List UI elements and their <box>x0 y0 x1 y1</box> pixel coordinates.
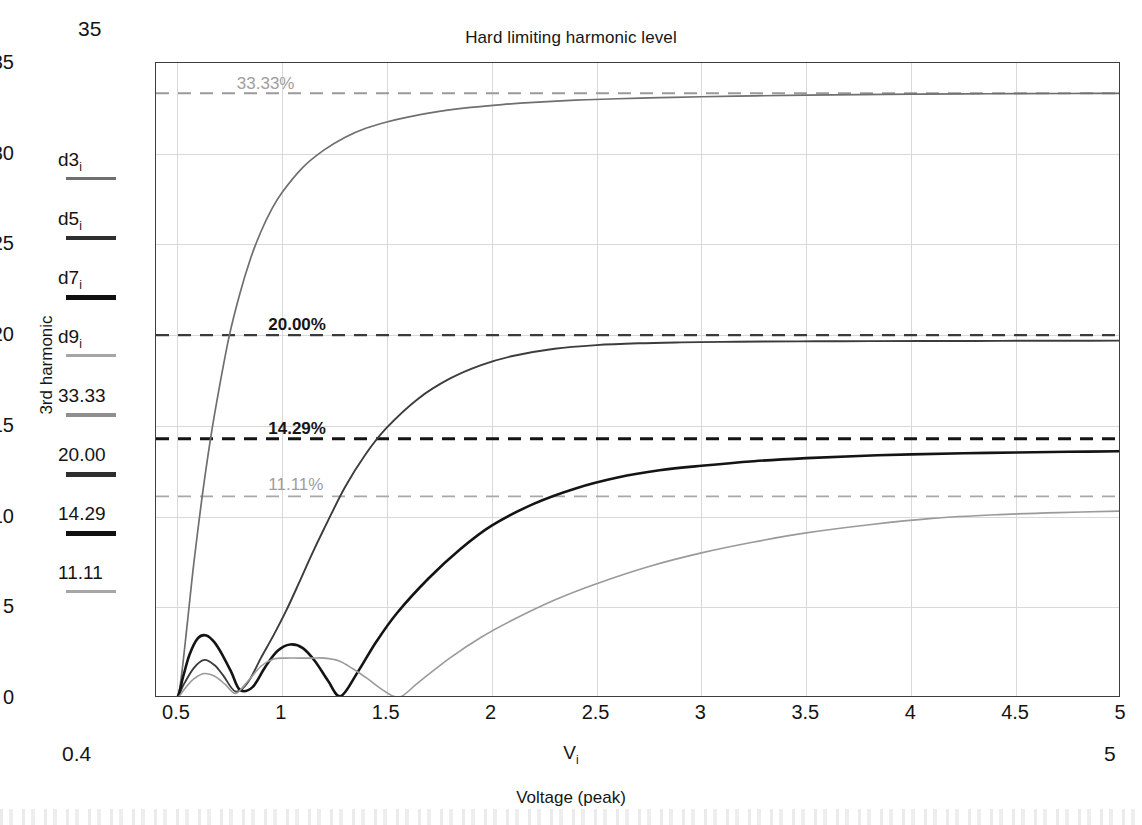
legend-item-label: 20.00 <box>58 445 148 465</box>
x-axis-variable: Vi <box>0 742 1142 767</box>
plot-inner <box>156 63 1119 696</box>
legend-item-swatch <box>66 590 116 593</box>
chart-title: Hard limiting harmonic level <box>0 28 1142 48</box>
series-curve-d5 <box>156 341 1119 696</box>
legend-item-swatch <box>66 295 116 300</box>
legend-item-d3[interactable]: d3i <box>58 150 148 209</box>
legend-item-swatch <box>66 531 116 536</box>
legend-item-swatch <box>66 177 116 180</box>
scan-artifact <box>0 809 1142 825</box>
y-tick-label: 20 <box>0 324 14 344</box>
y-tick-label: 35 <box>0 52 14 72</box>
chart-legend: d3id5id7id9i33.3320.0014.2911.11 <box>58 150 148 622</box>
x-tick-label: 3 <box>665 702 735 722</box>
legend-item-label: d5i <box>58 209 148 236</box>
reference-label-33.33: 33.33% <box>237 74 295 94</box>
y-tick-label: 10 <box>0 506 14 526</box>
y-tick-label: 15 <box>0 415 14 435</box>
x-tick-label: 4 <box>875 702 945 722</box>
x-tick-label: 5 <box>1085 702 1142 722</box>
series-curve-d9 <box>156 511 1119 696</box>
x-tick-label: 2 <box>456 702 526 722</box>
x-tick-label: 1 <box>246 702 316 722</box>
y-tick-label: 5 <box>0 596 14 616</box>
legend-item-label: 11.11 <box>58 563 148 583</box>
y-tick-label: 30 <box>0 143 14 163</box>
curve-layer <box>156 63 1119 696</box>
legend-item-14.29[interactable]: 14.29 <box>58 504 148 563</box>
x-tick-label: 2.5 <box>561 702 631 722</box>
x-tick-label: 3.5 <box>770 702 840 722</box>
legend-item-swatch <box>66 236 116 240</box>
x-tick-label: 0.5 <box>141 702 211 722</box>
y-tick-label: 25 <box>0 233 14 253</box>
plot-area <box>155 62 1120 697</box>
legend-item-label: d3i <box>58 150 148 177</box>
x-axis-title: Voltage (peak) <box>0 788 1142 808</box>
y-tick-label: 0 <box>0 687 14 707</box>
legend-item-swatch <box>66 413 116 417</box>
reference-label-14.29: 14.29% <box>268 419 326 439</box>
legend-item-label: d9i <box>58 327 148 354</box>
reference-label-20.00: 20.00% <box>268 315 326 335</box>
legend-item-label: 33.33 <box>58 386 148 406</box>
legend-item-11.11[interactable]: 11.11 <box>58 563 148 622</box>
legend-item-swatch <box>66 472 116 477</box>
legend-item-d9[interactable]: d9i <box>58 327 148 386</box>
legend-item-d5[interactable]: d5i <box>58 209 148 268</box>
axis-note-ymax: 35 <box>78 17 101 41</box>
legend-item-label: d7i <box>58 268 148 295</box>
reference-label-11.11: 11.11% <box>268 475 323 495</box>
legend-item-swatch <box>66 354 116 357</box>
y-axis-title: 3rd harmonic <box>37 285 57 445</box>
chart-figure: Hard limiting harmonic level 35 0.4 5 3r… <box>0 0 1142 825</box>
series-curve-d3 <box>156 93 1119 696</box>
legend-item-20.00[interactable]: 20.00 <box>58 445 148 504</box>
legend-item-d7[interactable]: d7i <box>58 268 148 327</box>
legend-item-33.33[interactable]: 33.33 <box>58 386 148 445</box>
x-tick-label: 4.5 <box>980 702 1050 722</box>
legend-item-label: 14.29 <box>58 504 148 524</box>
x-tick-label: 1.5 <box>351 702 421 722</box>
